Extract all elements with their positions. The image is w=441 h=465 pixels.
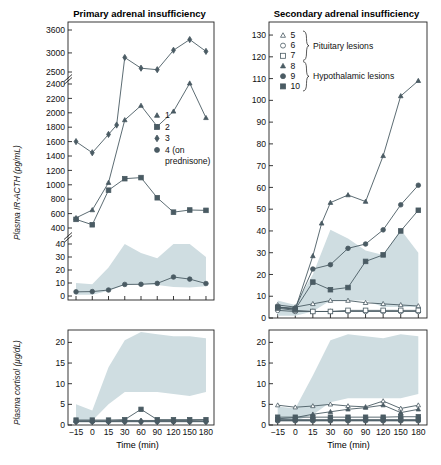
y-tick-label: 1600 <box>46 137 65 147</box>
data-point-2-4 <box>139 407 143 411</box>
y-tick-label: 10 <box>55 278 65 288</box>
x-tick-label-secondary-0: −15 <box>270 427 285 437</box>
x-tick-label-secondary-6: 120 <box>376 427 391 437</box>
x-tick-label-primary-7: 150 <box>183 427 198 437</box>
data-point-7-8 <box>416 308 421 313</box>
legend-label-1: 2 <box>165 122 170 132</box>
data-point-3-5 <box>139 65 143 71</box>
series-line-3 <box>76 40 206 153</box>
legend-label-5: 5 <box>291 30 296 40</box>
x-tick-label-secondary-5: 90 <box>361 427 371 437</box>
data-point-8-2 <box>311 254 316 258</box>
legend-label-9: 9 <box>291 71 296 81</box>
data-point-10-8 <box>416 415 420 419</box>
y-tick-label: 30 <box>256 248 266 258</box>
data-point-4 (on prednisone)-2 <box>106 419 110 423</box>
data-point-4 (on prednisone)-5 <box>155 281 160 286</box>
normal-range-band-secondary-acth <box>278 230 419 316</box>
legend-marker-8 <box>281 63 286 68</box>
data-point-4 (on prednisone)-8 <box>204 281 209 286</box>
data-point-8-8 <box>416 407 420 411</box>
y-tick-label: 0 <box>261 420 266 430</box>
chart-svg-primary: 3600300025002400220020001800160014001200… <box>0 0 221 440</box>
data-point-4 (on prednisone)-0 <box>74 419 78 423</box>
y-tick-label: 400 <box>51 223 66 233</box>
y-tick-label: 2400 <box>46 79 65 89</box>
legend-primary: 1234 (onprednisone) <box>155 110 211 166</box>
y-tick-label: 60 <box>256 183 266 193</box>
legend-label-8: 8 <box>291 61 296 71</box>
data-point-9-3 <box>328 262 333 267</box>
data-point-7-7 <box>398 308 403 313</box>
data-point-8-3 <box>319 221 324 225</box>
x-axis-label-left: Time (min) <box>60 440 215 450</box>
x-tick-label-secondary-1: 0 <box>293 427 298 437</box>
legend-marker-7 <box>281 53 286 58</box>
y-tick-label: 0 <box>261 313 266 323</box>
y-tick-label: 10 <box>55 379 65 389</box>
y-tick-label: 20 <box>55 265 65 275</box>
x-tick-label-secondary-7: 150 <box>394 427 409 437</box>
legend-marker-1 <box>155 113 160 118</box>
series-secondary-cortisol-10 <box>275 415 420 420</box>
data-point-4 (on prednisone)-0 <box>74 290 79 295</box>
data-point-7-3 <box>328 309 333 314</box>
y-tick-label: 15 <box>256 358 266 368</box>
x-tick-label-primary-5: 90 <box>152 427 162 437</box>
y-tick-label: 2200 <box>46 94 65 104</box>
x-tick-label-secondary-4: 60 <box>343 427 353 437</box>
data-point-2-8 <box>204 208 209 213</box>
legend-brace-hypothalamic <box>303 62 309 91</box>
x-tick-label-secondary-3: 30 <box>326 427 336 437</box>
series-primary-cortisol-4-on-prednisone- <box>74 419 208 423</box>
data-point-9-6 <box>381 228 386 233</box>
data-point-7-2 <box>311 309 316 314</box>
y-tick-label: 0 <box>60 420 65 430</box>
data-point-2-6 <box>171 210 176 215</box>
data-point-9-8 <box>416 183 421 188</box>
legend-marker-6 <box>281 43 286 48</box>
legend-label-7: 7 <box>291 50 296 60</box>
data-point-8-6 <box>381 403 385 407</box>
data-point-9-7 <box>398 203 403 208</box>
data-point-4 (on prednisone)-3 <box>122 282 127 287</box>
data-point-1-8 <box>204 115 209 119</box>
normal-range-band-primary-acth <box>76 244 206 295</box>
data-point-4 (on prednisone)-7 <box>187 277 192 282</box>
data-point-10-2 <box>311 280 316 285</box>
data-point-10-3 <box>328 287 333 292</box>
y-tick-label: 2500 <box>46 67 65 77</box>
data-point-7-4 <box>346 308 351 313</box>
data-point-1-7 <box>187 81 192 85</box>
x-tick-label-secondary-2: 15 <box>308 427 318 437</box>
chart-svg-secondary: 01020304050607080901001101201305678910Pi… <box>221 0 441 440</box>
y-tick-label: 20 <box>55 337 65 347</box>
y-tick-label: 20 <box>256 270 266 280</box>
y-tick-label: 70 <box>256 161 266 171</box>
data-point-10-1 <box>293 307 298 312</box>
data-point-1-2 <box>106 180 111 184</box>
legend-label-4: prednisone) <box>165 156 211 166</box>
legend-label-10: 10 <box>291 81 301 91</box>
figure-root: Primary adrenal insufficiency Plasma IR-… <box>0 0 441 465</box>
data-point-10-7 <box>398 229 403 234</box>
x-tick-label-primary-2: 15 <box>104 427 114 437</box>
y-tick-label: 1200 <box>46 166 65 176</box>
legend-label-2: 3 <box>165 133 170 143</box>
data-point-1-6 <box>171 109 176 113</box>
series-primary-acth-3 <box>74 36 208 155</box>
data-point-4 (on prednisone)-6 <box>171 419 175 423</box>
legend-marker-4-on <box>155 147 160 152</box>
data-point-4 (on prednisone)-4 <box>139 282 144 287</box>
y-tick-label: 5 <box>60 399 65 409</box>
y-tick-label: 3000 <box>46 48 65 58</box>
panel-secondary-adrenal-insufficiency: Secondary adrenal insufficiency Time (mi… <box>221 0 441 465</box>
y-tick-label: 800 <box>51 194 66 204</box>
data-point-10-4 <box>346 285 351 290</box>
legend-marker-10 <box>281 84 286 89</box>
data-point-4 (on prednisone)-4 <box>139 419 143 423</box>
data-point-3-8 <box>188 36 192 42</box>
data-point-4 (on prednisone)-1 <box>90 419 94 423</box>
data-point-3-0 <box>74 138 78 144</box>
data-point-8-9 <box>416 78 421 82</box>
